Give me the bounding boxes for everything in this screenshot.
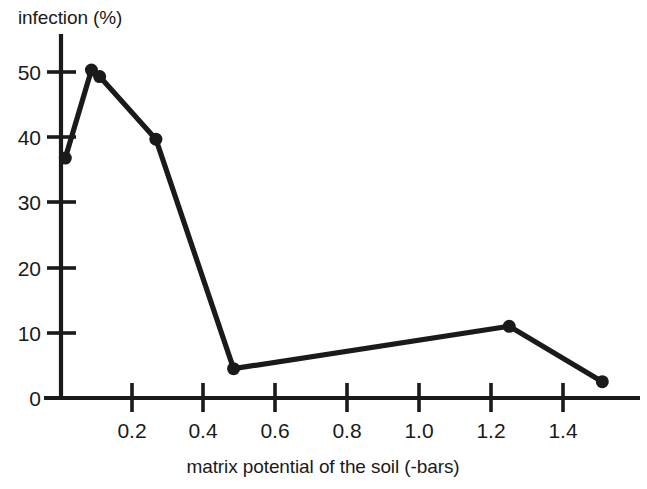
data-point-marker (93, 70, 106, 83)
x-tick-label-0.2: 0.2 (117, 419, 146, 442)
data-point-marker (227, 362, 240, 375)
y-tick-label-20: 20 (18, 257, 41, 280)
x-tick-label-0.6: 0.6 (260, 419, 289, 442)
y-axis-label: infection (%) (18, 7, 122, 28)
chart-canvas: infection (%) 50 40 30 20 10 0 (0, 0, 647, 489)
x-tick-label-1.4: 1.4 (548, 419, 578, 442)
x-tick-label-1.0: 1.0 (404, 419, 433, 442)
y-tick-label-50: 50 (18, 61, 41, 84)
x-tick-labels: 0.2 0.4 0.6 0.8 1.0 1.2 1.4 (117, 419, 578, 442)
data-point-marker (503, 320, 516, 333)
y-tick-label-30: 30 (18, 191, 41, 214)
y-tick-label-0: 0 (29, 387, 41, 410)
data-point-marker (596, 375, 609, 388)
x-tick-label-0.8: 0.8 (332, 419, 361, 442)
x-axis-label: matrix potential of the soil (-bars) (186, 456, 459, 477)
data-series-markers (59, 64, 609, 389)
chart-figure: infection (%) 50 40 30 20 10 0 (0, 0, 647, 489)
x-tick-label-0.4: 0.4 (188, 419, 218, 442)
data-series-line (65, 70, 602, 382)
y-tick-label-40: 40 (18, 126, 41, 149)
y-tick-label-10: 10 (18, 322, 41, 345)
data-point-marker (59, 152, 72, 165)
y-tick-labels: 50 40 30 20 10 0 (18, 61, 41, 410)
data-point-marker (149, 133, 162, 146)
x-tick-label-1.2: 1.2 (476, 419, 505, 442)
